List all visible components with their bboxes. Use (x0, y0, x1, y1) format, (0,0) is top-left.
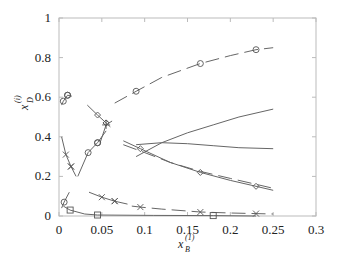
series-square-solid-bottom (63, 206, 256, 219)
plot-border (59, 18, 316, 216)
series-solid-rising-middle (136, 109, 273, 157)
y-axis-label-group: x D (i) (13, 95, 35, 111)
series-diamond-solid-upper (87, 105, 110, 127)
x-marker-icon (99, 194, 105, 200)
x-tick-label: 0 (56, 222, 63, 237)
x-tick-label: 0.05 (90, 222, 113, 237)
y-axis-label: x (17, 104, 31, 111)
chart: 00.050.10.150.20.250.300.20.40.60.81 x B… (0, 0, 340, 265)
series-line (136, 109, 273, 157)
y-tick-label: 0 (45, 208, 52, 223)
series-x-solid-left (62, 137, 77, 177)
series-circle-dashed-upper (115, 47, 274, 103)
circle-marker-icon (197, 61, 203, 67)
series-line (87, 105, 110, 127)
x-axis-label-sup: (1) (185, 233, 195, 242)
x-axis-label-sub: B (185, 245, 190, 254)
x-marker-icon (68, 164, 74, 170)
data-series (60, 47, 273, 219)
x-tick-label: 0.2 (222, 222, 238, 237)
y-axis-label-sub: D (26, 97, 35, 104)
y-tick-label: 0.6 (35, 89, 52, 104)
y-axis-label-sup: (i) (13, 95, 22, 103)
series-circle-solid-topleft (60, 92, 72, 105)
y-tick-label: 1 (45, 10, 52, 25)
series-line (115, 48, 274, 103)
x-axis-label: x (177, 237, 184, 251)
x-tick-label: 0.3 (308, 222, 324, 237)
y-tick-label: 0.8 (35, 50, 51, 65)
series-plus-descending (100, 121, 112, 143)
plot-frame (59, 18, 316, 216)
x-tick-label: 0.25 (262, 222, 285, 237)
y-tick-label: 0.2 (35, 168, 51, 183)
axis-ticks: 00.050.10.150.20.250.300.20.40.60.81 (35, 10, 324, 237)
series-line (63, 206, 256, 216)
series-circle-solid-lowleft (61, 192, 69, 208)
series-x-solid-lower (89, 192, 128, 204)
series-line (89, 192, 128, 204)
y-tick-label: 0.4 (35, 129, 52, 144)
x-marker-icon (112, 198, 118, 204)
series-line (62, 192, 70, 208)
x-tick-label: 0.1 (137, 222, 153, 237)
series-x-dashed-bottom (132, 204, 273, 217)
